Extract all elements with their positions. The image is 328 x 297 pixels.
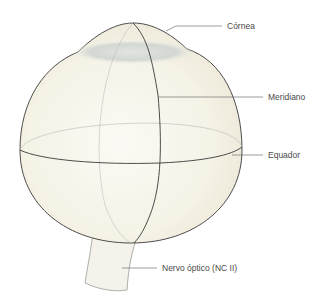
eyeball-diagram	[0, 0, 328, 297]
cornea-leader	[166, 26, 222, 31]
cornea-shading	[71, 40, 195, 64]
optic-nerve-label: Nervo óptico (NC II)	[162, 263, 237, 273]
equator-label: Equador	[268, 150, 300, 160]
meridian-label: Meridiano	[268, 92, 305, 102]
cornea-label: Córnea	[227, 21, 255, 31]
